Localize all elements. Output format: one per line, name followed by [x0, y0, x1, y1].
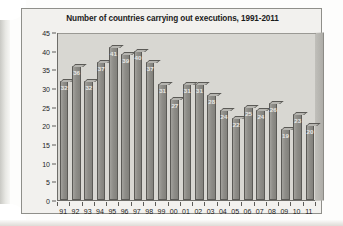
bar-95[interactable]: 41: [109, 47, 118, 200]
plot-top-edge: [58, 33, 316, 34]
bar-value-label: 24: [257, 114, 264, 120]
bar-value-label: 37: [98, 66, 105, 72]
x-axis-tick-mark: [94, 202, 95, 206]
bar-05[interactable]: 22: [232, 118, 241, 200]
bar-91[interactable]: 32: [60, 81, 69, 200]
bar-06[interactable]: 25: [244, 107, 253, 200]
x-axis-tick-label: 07: [256, 208, 264, 215]
x-axis-tick-mark: [82, 202, 83, 206]
bar-98[interactable]: 37: [146, 62, 155, 200]
plot-area: 3236323741394037312731312824222524261923…: [57, 33, 315, 201]
x-axis-tick-label: 98: [145, 208, 153, 215]
y-axis-tick-mark: [52, 163, 56, 164]
bar-92[interactable]: 36: [72, 66, 81, 200]
bar-value-label: 31: [184, 88, 191, 94]
y-axis-tick-mark: [52, 51, 56, 52]
plot-wrapper: 3236323741394037312731312824222524261923…: [57, 33, 315, 201]
x-axis-tick-label: 95: [108, 208, 116, 215]
bar-top-face: [207, 93, 221, 96]
y-axis-tick-label: 20: [42, 123, 50, 130]
bar-top-face: [72, 64, 86, 67]
bar-07[interactable]: 24: [256, 110, 265, 200]
bar-value-label: 32: [85, 85, 92, 91]
x-axis-tick-label: 10: [293, 208, 301, 215]
bar-top-face: [158, 82, 172, 85]
bar-top-face: [220, 108, 234, 111]
bar-04[interactable]: 24: [220, 110, 229, 200]
page-root: Number of countries carrying out executi…: [0, 0, 343, 226]
x-axis-tick-mark: [155, 202, 156, 206]
x-axis-tick-label: 93: [84, 208, 92, 215]
x-axis-tick-mark: [266, 202, 267, 206]
bar-value-label: 40: [135, 55, 142, 61]
x-axis-tick-label: 03: [207, 208, 215, 215]
bar-top-face: [146, 60, 160, 63]
x-axis-tick-label: 04: [219, 208, 227, 215]
x-axis: 9192939495969798990001020304050607080910…: [57, 202, 315, 222]
bar-99[interactable]: 31: [158, 84, 167, 200]
bar-value-label: 20: [307, 129, 314, 135]
bar-value-label: 22: [233, 122, 240, 128]
x-axis-tick-mark: [290, 202, 291, 206]
x-axis-tick-label: 09: [280, 208, 288, 215]
y-axis-tick-mark: [52, 145, 56, 146]
bar-94[interactable]: 37: [97, 62, 106, 200]
bar-08[interactable]: 26: [269, 103, 278, 200]
x-axis-tick-label: 00: [170, 208, 178, 215]
bar-10[interactable]: 23: [293, 114, 302, 200]
bar-09[interactable]: 19: [281, 129, 290, 200]
y-axis-tick-label: 35: [42, 67, 50, 74]
y-axis-tick-label: 25: [42, 104, 50, 111]
bar-value-label: 28: [208, 99, 215, 105]
x-axis-tick-label: 96: [121, 208, 129, 215]
x-axis-tick-label: 94: [96, 208, 104, 215]
x-axis-tick-mark: [229, 202, 230, 206]
bar-11[interactable]: 20: [306, 125, 315, 200]
bar-00[interactable]: 27: [170, 99, 179, 200]
x-axis-tick-mark: [118, 202, 119, 206]
bar-93[interactable]: 32: [84, 81, 93, 200]
bar-01[interactable]: 31: [183, 84, 192, 200]
chart-title: Number of countries carrying out executi…: [22, 14, 323, 23]
x-axis-tick-label: 91: [59, 208, 67, 215]
x-axis-tick-label: 99: [158, 208, 166, 215]
x-axis-tick-mark: [204, 202, 205, 206]
bar-value-label: 25: [245, 111, 252, 117]
x-axis-tick-mark: [106, 202, 107, 206]
bar-03[interactable]: 28: [207, 95, 216, 200]
bar-value-label: 41: [110, 51, 117, 57]
bar-top-face: [293, 112, 307, 115]
bar-value-label: 23: [294, 118, 301, 124]
y-axis-tick-mark: [52, 89, 56, 90]
x-axis-tick-label: 08: [268, 208, 276, 215]
bar-02[interactable]: 31: [195, 84, 204, 200]
x-axis-tick-mark: [303, 202, 304, 206]
x-axis-tick-mark: [168, 202, 169, 206]
x-axis-tick-mark: [254, 202, 255, 206]
bar-value-label: 19: [282, 133, 289, 139]
bar-96[interactable]: 39: [121, 54, 130, 200]
x-axis-tick-mark: [143, 202, 144, 206]
bar-top-face: [134, 49, 148, 52]
bar-97[interactable]: 40: [134, 51, 143, 200]
y-axis-tick-label: 45: [42, 30, 50, 37]
x-axis-tick-mark: [57, 202, 58, 206]
x-axis-tick-mark: [69, 202, 70, 206]
y-axis-tick-mark: [52, 182, 56, 183]
x-axis-tick-mark: [131, 202, 132, 206]
chart-figure: Number of countries carrying out executi…: [21, 8, 322, 214]
x-axis-tick-mark: [315, 202, 316, 206]
bar-value-label: 31: [196, 88, 203, 94]
y-axis-tick-mark: [52, 126, 56, 127]
bar-value-label: 37: [147, 66, 154, 72]
bar-top-face: [195, 82, 209, 85]
x-axis-tick-label: 01: [182, 208, 190, 215]
y-axis: 051015202530354045: [22, 33, 56, 202]
y-axis-tick-mark: [52, 33, 56, 34]
page-edge-shadow: [0, 0, 10, 226]
bar-value-label: 26: [270, 107, 277, 113]
x-axis-tick-label: 97: [133, 208, 141, 215]
y-axis-tick-label: 30: [42, 86, 50, 93]
x-axis-tick-label: 11: [305, 208, 312, 215]
x-axis-tick-label: 92: [72, 208, 80, 215]
